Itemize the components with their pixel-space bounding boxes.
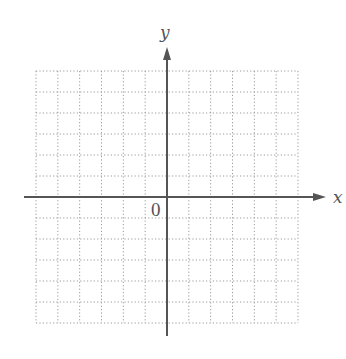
coordinate-plane: x y 0	[0, 0, 346, 359]
y-axis-arrow-icon	[163, 47, 171, 60]
axes	[24, 47, 326, 336]
origin-label: 0	[151, 199, 161, 220]
y-axis-label: y	[159, 22, 170, 42]
x-axis-label: x	[333, 187, 343, 207]
x-axis-arrow-icon	[313, 193, 326, 201]
